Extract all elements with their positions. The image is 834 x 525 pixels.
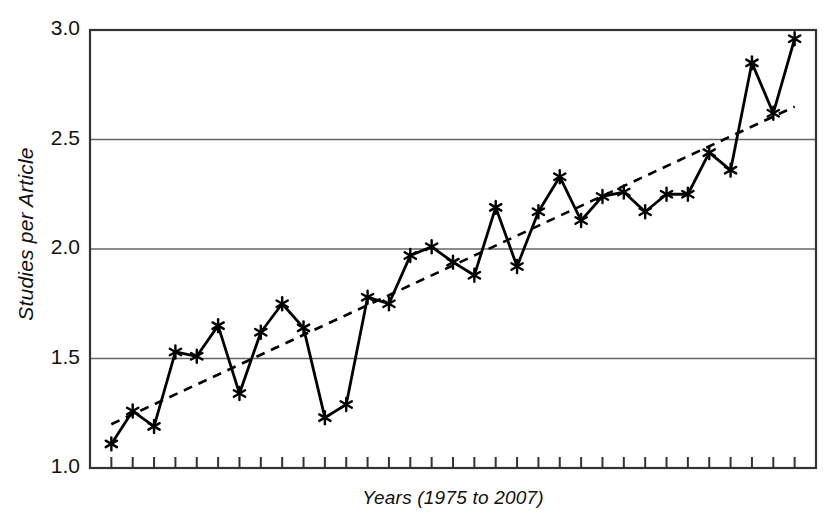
plot-area	[0, 0, 834, 525]
chart-figure: Studies per Article Years (1975 to 2007)…	[0, 0, 834, 525]
x-axis-ticks	[111, 457, 794, 468]
gridlines	[90, 140, 816, 359]
data-line	[111, 39, 794, 444]
data-markers	[106, 32, 801, 450]
